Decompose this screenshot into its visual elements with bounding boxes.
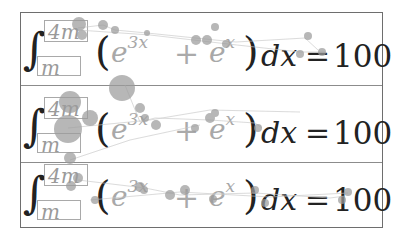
term-1: e3x [111, 116, 148, 144]
differential: dx [261, 185, 297, 215]
upper-limit-field[interactable]: 4m [44, 97, 88, 119]
upper-limit-field[interactable]: 4m [44, 20, 88, 42]
close-paren: ) [243, 31, 259, 71]
term-1-base: e [111, 113, 128, 146]
open-paren: ( [95, 31, 111, 71]
differential: dx [261, 118, 297, 148]
rhs-value[interactable]: 100 [333, 118, 392, 149]
equation: ∫ 4m m ( e3x + ex ) dx = 100 [21, 13, 382, 85]
equation-row-3[interactable]: ∫ 4m m ( e3x + ex ) dx = 100 [21, 162, 382, 227]
plus-operator: + [174, 116, 199, 146]
equation-stack: ∫ 4m m ( e3x + ex ) dx = 100 ∫ 4m m ( e3… [20, 12, 383, 228]
term-1-base: e [111, 180, 128, 213]
term-1-base: e [111, 36, 128, 69]
term-2-exponent: x [226, 176, 236, 196]
close-paren: ) [243, 175, 259, 215]
lower-limit-field[interactable]: m [37, 56, 81, 76]
term-2-base: e [209, 36, 226, 69]
term-1: e3x [111, 39, 148, 67]
lower-limit-field[interactable]: m [37, 200, 81, 220]
term-1-exponent: 3x [128, 176, 148, 196]
term-1: e3x [111, 183, 148, 211]
equation-row-2[interactable]: ∫ 4m m ( e3x + ex ) dx = 100 [21, 85, 382, 162]
plus-operator: + [174, 39, 199, 69]
term-2-exponent: x [226, 32, 236, 52]
upper-limit-field[interactable]: 4m [44, 164, 88, 186]
equals-sign: = [305, 41, 330, 71]
plus-operator: + [174, 183, 199, 213]
differential: dx [261, 41, 297, 71]
open-paren: ( [95, 175, 111, 215]
equation: ∫ 4m m ( e3x + ex ) dx = 100 [21, 163, 382, 227]
term-2: ex [209, 116, 235, 144]
equals-sign: = [305, 185, 330, 215]
close-paren: ) [243, 108, 259, 148]
equation: ∫ 4m m ( e3x + ex ) dx = 100 [21, 86, 382, 162]
term-2-base: e [209, 180, 226, 213]
term-2-base: e [209, 113, 226, 146]
term-2-exponent: x [226, 109, 236, 129]
equals-sign: = [305, 118, 330, 148]
open-paren: ( [95, 108, 111, 148]
term-2: ex [209, 39, 235, 67]
term-2: ex [209, 183, 235, 211]
equation-row-1[interactable]: ∫ 4m m ( e3x + ex ) dx = 100 [21, 13, 382, 85]
term-1-exponent: 3x [128, 109, 148, 129]
lower-limit-field[interactable]: m [37, 133, 81, 153]
term-1-exponent: 3x [128, 32, 148, 52]
rhs-value[interactable]: 100 [333, 41, 392, 72]
rhs-value[interactable]: 100 [333, 185, 392, 216]
